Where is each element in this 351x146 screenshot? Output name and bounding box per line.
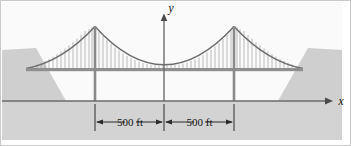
y-axis-label: y: [167, 2, 174, 15]
dimension-label-left-span: 500 ft: [117, 116, 143, 128]
bridge-diagram-svg: 500 ft 500 ft y x: [0, 0, 351, 146]
tower-right: [233, 26, 236, 101]
bridge-figure: 500 ft 500 ft y x: [0, 0, 351, 146]
x-axis-label: x: [337, 95, 344, 107]
tower-left: [94, 26, 97, 101]
dimension-label-right-span: 500 ft: [187, 116, 213, 128]
